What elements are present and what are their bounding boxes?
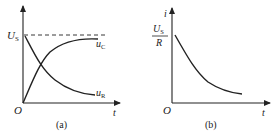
uc-label: uC: [96, 38, 105, 50]
caption-a: (a): [56, 119, 67, 131]
origin-label: O: [163, 104, 171, 116]
r-denominator: R: [155, 37, 162, 48]
us-label: US: [7, 29, 19, 43]
us-numerator: US: [153, 23, 164, 35]
rc-circuit-diagrams: US uC uR O t (a) i US R O t (b): [0, 0, 274, 139]
ur-label: uR: [96, 87, 106, 99]
i-curve: [175, 35, 242, 94]
t-axis-label: t: [113, 107, 116, 118]
t-axis-label: t: [262, 107, 265, 118]
origin-label: O: [14, 104, 22, 116]
caption-b: (b): [205, 119, 217, 131]
figure-a: US uC uR O t (a): [7, 6, 120, 131]
figure-b: i US R O t (b): [152, 8, 270, 131]
i-axis-label: i: [164, 8, 167, 19]
